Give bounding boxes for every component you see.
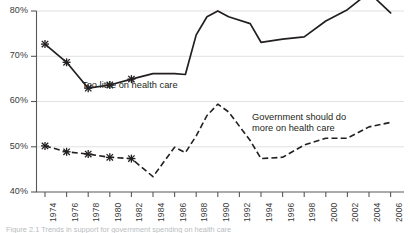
x-tick-label-1986: 1986 [178, 203, 188, 222]
y-tick-marks [31, 11, 37, 192]
annotation-government-should-do-more: Government should do more on health care [252, 112, 346, 134]
gridlines [36, 11, 404, 147]
x-tick-label-1994: 1994 [264, 203, 274, 222]
x-tick-label-1990: 1990 [221, 203, 231, 222]
x-tick-label-1996: 1996 [286, 203, 296, 222]
annotation-line-1: Government should do [252, 112, 346, 122]
marker-point [41, 142, 49, 150]
figure-caption: Figure 2.1 Trends in support for governm… [6, 226, 406, 233]
x-tick-label-1980: 1980 [113, 203, 123, 222]
y-tick-label-70: 70% [0, 50, 28, 60]
x-tick-label-1974: 1974 [48, 203, 58, 222]
marker-point [106, 153, 114, 161]
x-tick-label-1992: 1992 [242, 203, 252, 222]
marker-point [63, 58, 71, 66]
x-tick-label-1988: 1988 [199, 203, 209, 222]
x-tick-label-2000: 2000 [329, 203, 339, 222]
x-tick-label-1978: 1978 [91, 203, 101, 222]
y-tick-label-80: 80% [0, 5, 28, 15]
x-tick-label-2002: 2002 [350, 203, 360, 222]
y-tick-label-60: 60% [0, 95, 28, 105]
x-tick-marks [45, 192, 391, 197]
x-tick-label-1984: 1984 [156, 203, 166, 222]
x-tick-label-1982: 1982 [134, 203, 144, 222]
marker-point [41, 40, 49, 48]
annotation-too-little: Too little on health care [82, 80, 178, 91]
y-tick-label-50: 50% [0, 141, 28, 151]
marker-point [127, 155, 135, 163]
series-gov-should-do-more-markers [41, 142, 135, 163]
x-tick-label-2006: 2006 [394, 203, 404, 222]
marker-point [63, 148, 71, 156]
series-too-little-line [45, 0, 391, 88]
x-tick-label-1976: 1976 [70, 203, 80, 222]
y-tick-label-40: 40% [0, 186, 28, 196]
annotation-line-2: more on health care [252, 123, 335, 133]
chart-canvas [0, 0, 410, 233]
marker-point [84, 150, 92, 158]
x-tick-label-1998: 1998 [307, 203, 317, 222]
x-tick-label-2004: 2004 [372, 203, 382, 222]
figure-container: 80% 70% 60% 50% 40% 1974 1976 1978 1980 … [0, 0, 410, 233]
